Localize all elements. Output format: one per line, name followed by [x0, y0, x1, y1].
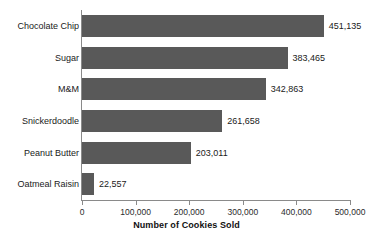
bar-row: 451,135 — [82, 15, 350, 37]
bar-row: 261,658 — [82, 110, 350, 132]
category-label: Chocolate Chip — [17, 15, 79, 37]
x-axis-line — [81, 200, 350, 201]
category-label: Peanut Butter — [24, 142, 79, 164]
bar-value-label: 22,557 — [94, 179, 127, 189]
x-tick-label: 300,000 — [227, 207, 258, 217]
x-tick-label: 100,000 — [120, 207, 151, 217]
bar — [82, 47, 288, 69]
x-tick-label: 200,000 — [174, 207, 205, 217]
x-tick-label: 400,000 — [281, 207, 312, 217]
x-tick-mark — [243, 200, 244, 205]
x-tick-mark — [136, 200, 137, 205]
category-label: Snickerdoodle — [22, 110, 79, 132]
bar-row: 203,011 — [82, 142, 350, 164]
bar-value-label: 342,863 — [266, 84, 304, 94]
category-axis-labels: Chocolate ChipSugarM&MSnickerdoodlePeanu… — [0, 10, 79, 200]
bar-value-label: 203,011 — [191, 148, 228, 158]
bar — [82, 110, 222, 132]
x-tick-label: 500,000 — [335, 207, 366, 217]
x-tick-label: 0 — [80, 207, 85, 217]
plot-area: 0100,000200,000300,000400,000500,000451,… — [82, 10, 350, 200]
x-tick-mark — [296, 200, 297, 205]
bar-row: 383,465 — [82, 47, 350, 69]
bar-value-label: 451,135 — [324, 21, 362, 31]
bar-value-label: 383,465 — [288, 53, 326, 63]
x-axis-title: Number of Cookies Sold — [0, 220, 373, 230]
category-label: Oatmeal Raisin — [17, 173, 79, 195]
x-tick-mark — [82, 200, 83, 205]
x-tick-mark — [350, 200, 351, 205]
bar — [82, 78, 266, 100]
chart-title: March Cookie Sales — [0, 0, 373, 2]
y-axis-line — [81, 10, 82, 200]
category-label: M&M — [58, 78, 79, 100]
bar-row: 342,863 — [82, 78, 350, 100]
bar-chart: March Cookie Sales Chocolate ChipSugarM&… — [0, 0, 373, 239]
bar-value-label: 261,658 — [222, 116, 260, 126]
bar — [82, 142, 191, 164]
bar — [82, 173, 94, 195]
x-tick-mark — [189, 200, 190, 205]
category-label: Sugar — [55, 47, 79, 69]
bar — [82, 15, 324, 37]
bar-row: 22,557 — [82, 173, 350, 195]
